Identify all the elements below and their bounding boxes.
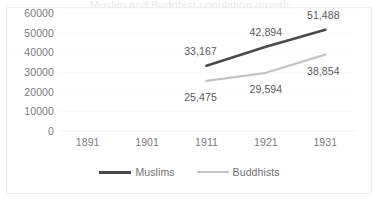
chart-card: Muslim and Buddhist population growth 01… (0, 0, 379, 200)
data-label-muslims-1911: 33,167 (184, 45, 217, 57)
legend-swatch-icon (99, 171, 131, 174)
data-label-buddhists-1931: 38,854 (307, 65, 340, 77)
legend-swatch-icon (197, 171, 229, 173)
gridline (58, 131, 355, 132)
y-axis-tick-label: 50000 (24, 27, 54, 39)
legend-item-muslims[interactable]: Muslims (99, 166, 174, 178)
y-axis-tick-label: 40000 (24, 46, 54, 58)
x-axis-tick-label: 1911 (195, 136, 218, 148)
x-axis-labels: 18911901191119211931 (58, 136, 355, 152)
x-axis-tick-label: 1891 (76, 136, 100, 148)
y-axis-tick-label: 20000 (24, 86, 54, 98)
data-label-buddhists-1911: 25,475 (184, 91, 217, 103)
x-axis-tick-label: 1931 (313, 136, 337, 148)
y-axis-tick-label: 0 (48, 125, 54, 137)
x-axis-tick-label: 1901 (135, 136, 159, 148)
y-axis-tick-label: 60000 (24, 7, 54, 19)
clipped-chart-title: Muslim and Buddhist population growth (0, 0, 379, 7)
legend-label: Buddhists (233, 166, 280, 178)
legend-item-buddhists[interactable]: Buddhists (197, 166, 280, 178)
data-label-muslims-1931: 51,488 (307, 9, 340, 21)
legend-label: Muslims (135, 166, 174, 178)
y-axis-tick-label: 30000 (24, 66, 54, 78)
x-axis-tick-label: 1921 (254, 136, 278, 148)
y-axis-tick-label: 10000 (24, 105, 54, 117)
y-axis-labels: 0100002000030000400005000060000 (8, 13, 54, 131)
data-label-buddhists-1921: 29,594 (250, 83, 283, 95)
chart-legend: MuslimsBuddhists (0, 166, 379, 178)
data-label-muslims-1921: 42,894 (250, 26, 283, 38)
